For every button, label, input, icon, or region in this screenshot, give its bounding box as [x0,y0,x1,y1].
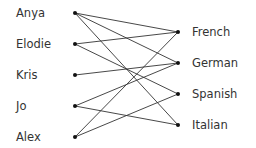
node-alex [73,135,77,139]
right-label-french: French [192,25,230,39]
labels-group: Anya Elodie Kris Jo Alex French German S… [15,6,238,144]
right-label-spanish: Spanish [192,87,237,101]
node-elodie [73,42,77,46]
node-jo [73,104,77,108]
edges-group [75,13,178,137]
right-label-italian: Italian [192,118,228,132]
left-label-kris: Kris [16,68,37,82]
left-label-jo: Jo [15,99,26,113]
node-german [176,61,180,65]
edge-alex-french [75,32,178,137]
node-italian [176,123,180,127]
edge-elodie-french [75,32,178,44]
nodes-group [73,11,180,139]
bipartite-graph: Anya Elodie Kris Jo Alex French German S… [0,0,256,148]
node-anya [73,11,77,15]
edge-alex-spanish [75,94,178,137]
left-label-alex: Alex [16,130,41,144]
node-french [176,30,180,34]
left-label-elodie: Elodie [16,37,51,51]
left-label-anya: Anya [16,6,45,20]
node-kris [73,73,77,77]
node-spanish [176,92,180,96]
right-label-german: German [192,56,238,70]
